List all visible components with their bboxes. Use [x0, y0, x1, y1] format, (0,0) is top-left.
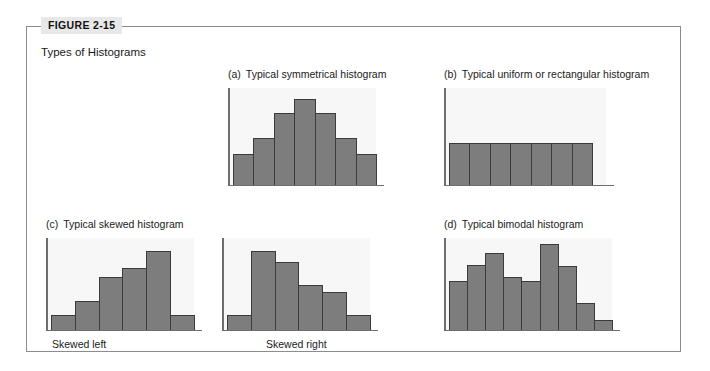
panel-d-bars	[449, 238, 612, 330]
panel-b-caption: (b)Typical uniform or rectangular histog…	[444, 68, 649, 80]
panel-b-caption-text: Typical uniform or rectangular histogram	[462, 68, 649, 80]
panel-b-plot	[444, 88, 606, 186]
bar	[469, 143, 490, 184]
panel-c-right-axis-label: Skewed right	[266, 338, 327, 350]
bar	[335, 138, 356, 185]
panel-b-y-axis	[444, 88, 446, 186]
panel-c-left-x-axis	[46, 330, 202, 332]
panel-c-right-plot	[222, 238, 370, 331]
panel-b-x-axis	[444, 185, 614, 187]
bar	[449, 281, 468, 330]
panel-c-caption: (c)Typical skewed histogram	[46, 218, 183, 230]
panel-d-x-axis	[444, 330, 620, 332]
bar	[99, 277, 124, 329]
panel-a-letter: (a)	[228, 68, 241, 80]
figure-tag-rule-left	[27, 26, 41, 27]
bar	[322, 292, 347, 330]
panel-c-right-skewed-right: Skewed right	[222, 238, 392, 348]
panel-d-bimodal: (d)Typical bimodal histogram	[444, 218, 644, 348]
bar	[551, 143, 572, 184]
bar	[253, 138, 274, 185]
panel-c-letter: (c)	[46, 218, 58, 230]
bar	[558, 266, 577, 329]
panel-a-plot	[228, 88, 376, 186]
figure-title: Types of Histograms	[41, 46, 146, 58]
panel-d-caption-text: Typical bimodal histogram	[462, 218, 583, 230]
bar	[170, 315, 195, 329]
bar	[146, 251, 171, 329]
bar	[503, 277, 522, 329]
panel-d-y-axis	[444, 238, 446, 331]
bar	[274, 113, 295, 185]
figure-number-badge: FIGURE 2-15	[41, 17, 122, 34]
bar	[356, 154, 377, 184]
panel-c-right-bars	[227, 238, 370, 330]
panel-b-letter: (b)	[444, 68, 457, 80]
panel-c-left-axis-label: Skewed left	[52, 338, 106, 350]
bar	[227, 315, 252, 329]
panel-c-right-y-axis	[222, 238, 224, 331]
panel-c-left-skewed-left: Skewed left	[46, 238, 206, 348]
bar	[51, 315, 76, 329]
bar	[251, 251, 276, 329]
bar	[572, 143, 593, 184]
panel-c-left-y-axis	[46, 238, 48, 331]
figure-tag-rule-right	[138, 26, 681, 27]
bar	[75, 301, 100, 330]
panel-c-skewed: (c)Typical skewed histogram	[46, 218, 246, 238]
bar	[122, 268, 147, 329]
bar	[233, 154, 254, 184]
panel-b-uniform: (b)Typical uniform or rectangular histog…	[444, 68, 644, 188]
bar	[521, 281, 540, 330]
panel-a-bars	[233, 88, 376, 185]
bar	[294, 99, 315, 184]
bar	[490, 143, 511, 184]
panel-d-caption: (d)Typical bimodal histogram	[444, 218, 583, 230]
bar	[315, 113, 336, 185]
bar	[594, 320, 613, 330]
panel-c-caption-text: Typical skewed histogram	[63, 218, 183, 230]
panel-a-x-axis	[228, 185, 384, 187]
panel-c-left-plot	[46, 238, 194, 331]
panel-d-plot	[444, 238, 612, 331]
bar	[576, 303, 595, 330]
bar	[346, 315, 371, 329]
bar	[298, 285, 323, 329]
bar	[510, 143, 531, 184]
panel-a-caption: (a)Typical symmetrical histogram	[228, 68, 386, 80]
panel-c-right-x-axis	[222, 330, 378, 332]
bar	[449, 143, 470, 184]
panel-a-caption-text: Typical symmetrical histogram	[246, 68, 387, 80]
bar	[275, 262, 300, 330]
bar	[467, 265, 486, 330]
panel-d-letter: (d)	[444, 218, 457, 230]
figure-page: FIGURE 2-15 Types of Histograms (a)Typic…	[0, 0, 710, 371]
panel-c-left-bars	[51, 238, 194, 330]
panel-a-symmetrical: (a)Typical symmetrical histogram	[228, 68, 408, 188]
panel-a-y-axis	[228, 88, 230, 186]
panel-b-bars	[449, 88, 592, 185]
bar	[540, 244, 559, 329]
bar	[531, 143, 552, 184]
bar	[485, 253, 504, 330]
